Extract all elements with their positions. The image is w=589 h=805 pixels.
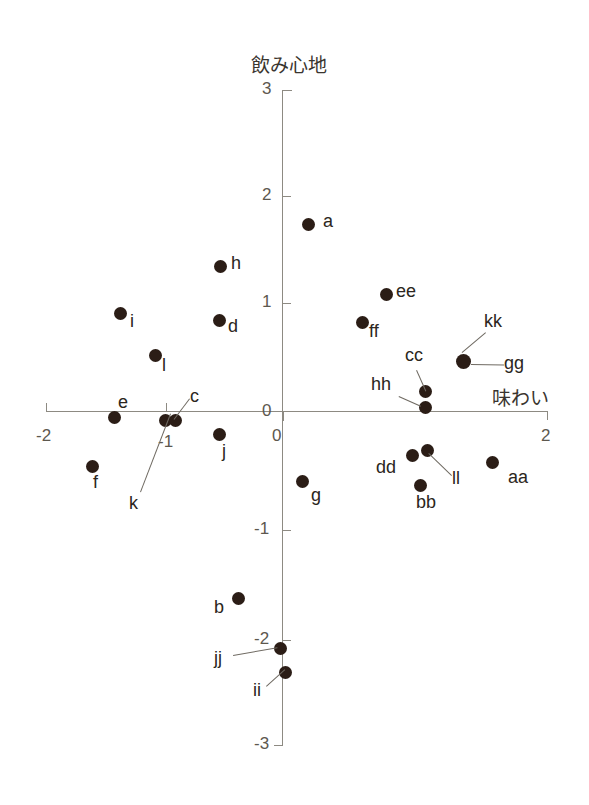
data-point-b <box>232 592 245 605</box>
data-point-bb <box>414 479 427 492</box>
y-tick-minus3 <box>274 745 283 746</box>
leader-line-c <box>174 398 190 419</box>
x-tick-label-minus2: -2 <box>36 426 51 446</box>
x-axis-left-cap <box>46 403 47 412</box>
y-tick-minus1 <box>283 530 291 531</box>
point-label-g: g <box>311 485 321 506</box>
data-point-j <box>213 428 226 441</box>
y-tick-label-minus1: -1 <box>254 519 269 539</box>
y-tick-1 <box>283 303 291 304</box>
scatter-plot: 3 2 1 0 -1 -2 -3 -2 -1 0 2 飲み心地 味わい <box>0 0 589 805</box>
point-label-cc: cc <box>405 345 423 366</box>
point-label-ll: ll <box>452 468 460 489</box>
data-point-f <box>86 460 99 473</box>
y-tick-label-0: 0 <box>262 401 271 421</box>
point-label-bb: bb <box>416 492 436 513</box>
y-axis-title: 飲み心地 <box>251 50 327 77</box>
point-label-ff: ff <box>369 321 379 342</box>
data-point-i <box>114 307 127 320</box>
y-tick-2 <box>283 196 291 197</box>
leader-line-kk <box>462 332 486 353</box>
point-label-kk: kk <box>484 311 502 332</box>
point-label-ee: ee <box>396 281 416 302</box>
y-tick-label-1: 1 <box>262 292 271 312</box>
point-label-aa: aa <box>508 467 528 488</box>
point-label-k: k <box>129 493 138 514</box>
data-point-aa <box>486 456 499 469</box>
data-point-g <box>296 475 309 488</box>
x-axis-title: 味わい <box>492 383 549 410</box>
point-label-gg: gg <box>504 353 524 374</box>
point-label-dd: dd <box>376 457 396 478</box>
x-tick-label-minus1: -1 <box>158 432 173 452</box>
point-label-j: j <box>222 441 226 462</box>
point-label-e: e <box>118 392 128 413</box>
data-point-ee <box>380 288 393 301</box>
point-label-c: c <box>190 386 199 407</box>
point-label-jj: jj <box>214 648 222 669</box>
leader-line-gg <box>471 364 504 366</box>
leader-line-hh <box>399 396 421 407</box>
x-tick-label-2: 2 <box>541 426 550 446</box>
point-label-ii: ii <box>253 680 261 701</box>
x-tick-0 <box>283 412 284 421</box>
data-point-a <box>302 218 315 231</box>
y-tick-label-minus2: -2 <box>254 629 269 649</box>
leader-line-ll <box>428 453 452 476</box>
x-tick-label-0: 0 <box>272 426 281 446</box>
x-tick-minus1 <box>166 403 167 412</box>
point-label-a: a <box>323 211 333 232</box>
data-point-dd <box>406 449 419 462</box>
y-tick-label-3: 3 <box>262 79 271 99</box>
data-point-kk-gg <box>456 354 471 369</box>
point-label-h: h <box>231 253 241 274</box>
x-axis-right-cap <box>547 411 548 420</box>
data-point-d <box>213 314 226 327</box>
data-point-h <box>214 260 227 273</box>
point-label-d: d <box>228 316 238 337</box>
point-label-l: l <box>162 355 166 376</box>
point-label-hh: hh <box>371 374 391 395</box>
y-tick-3 <box>283 90 291 91</box>
point-label-b: b <box>214 597 224 618</box>
y-tick-minus2 <box>283 640 291 641</box>
point-label-f: f <box>93 472 98 493</box>
y-tick-label-minus3: -3 <box>254 734 269 754</box>
data-point-ff <box>356 316 369 329</box>
data-point-l <box>149 349 162 362</box>
y-tick-label-2: 2 <box>262 185 271 205</box>
data-point-hh <box>419 401 432 414</box>
point-label-i: i <box>130 311 134 332</box>
leader-line-k <box>140 414 171 493</box>
